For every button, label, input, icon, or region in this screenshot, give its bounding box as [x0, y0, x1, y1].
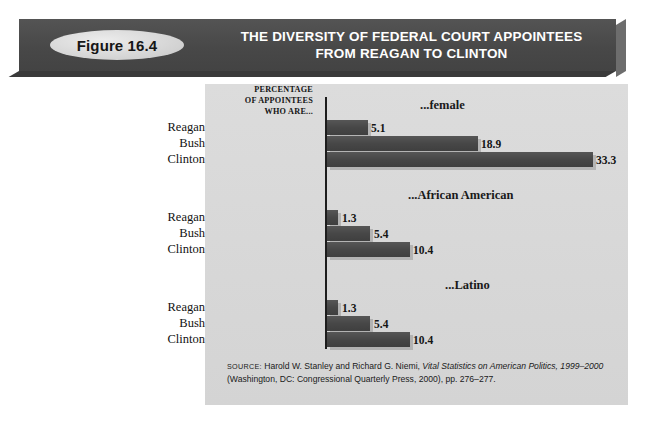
- figure-title-line-1: THE DIVERSITY OF FEDERAL COURT APPOINTEE…: [219, 28, 604, 45]
- bar-category-label: Bush: [89, 316, 205, 331]
- axis-caption-line-3: WHO ARE...: [207, 106, 313, 117]
- group-heading-female: ...female: [420, 98, 465, 113]
- figure-header-banner: Figure 16.4 THE DIVERSITY OF FEDERAL COU…: [19, 19, 626, 77]
- bar-value-label: 5.4: [374, 226, 388, 242]
- chart-panel: PERCENTAGE OF APPOINTEES WHO ARE... ...f…: [205, 84, 628, 405]
- banner-face: Figure 16.4 THE DIVERSITY OF FEDERAL COU…: [19, 19, 616, 71]
- bar-value-label: 10.4: [413, 242, 433, 258]
- figure-title-line-2: FROM REAGAN TO CLINTON: [219, 45, 604, 62]
- bar-value-label: 10.4: [413, 332, 433, 348]
- bar-category-label: Reagan: [89, 120, 205, 135]
- axis-caption-line-2: OF APPOINTEES: [207, 95, 313, 106]
- bar-category-label: Clinton: [89, 242, 205, 257]
- bar-value-label: 5.1: [371, 120, 385, 136]
- source-publisher: (Washington, DC: Congressional Quarterly…: [227, 374, 496, 384]
- bar-value-label: 18.9: [481, 136, 501, 152]
- plot-area: PERCENTAGE OF APPOINTEES WHO ARE... ...f…: [205, 84, 628, 354]
- bar-value-label: 1.3: [342, 210, 356, 226]
- bar-african-american-clinton: [327, 242, 410, 257]
- bar-female-bush: [327, 136, 478, 151]
- banner-bevel-right: [616, 19, 626, 77]
- source-note: SOURCE: Harold W. Stanley and Richard G.…: [227, 360, 617, 386]
- source-authors: Harold W. Stanley and Richard G. Niemi,: [262, 361, 422, 371]
- bar-female-clinton: [327, 152, 593, 167]
- bar-category-label: Clinton: [89, 152, 205, 167]
- figure-title: THE DIVERSITY OF FEDERAL COURT APPOINTEE…: [219, 28, 604, 62]
- banner-bevel-bottom: [9, 71, 616, 77]
- bar-category-label: Bush: [89, 136, 205, 151]
- group-heading-latino: ...Latino: [445, 278, 490, 293]
- bar-category-label: Bush: [89, 226, 205, 241]
- bar-category-label: Reagan: [89, 210, 205, 225]
- bar-value-label: 33.3: [596, 152, 616, 168]
- figure-number-label: Figure 16.4: [77, 37, 157, 54]
- bar-value-label: 5.4: [374, 316, 388, 332]
- bar-latino-reagan: [327, 300, 338, 315]
- bar-value-label: 1.3: [342, 300, 356, 316]
- axis-caption: PERCENTAGE OF APPOINTEES WHO ARE...: [207, 84, 313, 117]
- bar-latino-bush: [327, 316, 370, 331]
- bar-african-american-reagan: [327, 210, 338, 225]
- group-heading-african-american: ...African American: [408, 188, 514, 203]
- bar-category-label: Clinton: [89, 332, 205, 347]
- source-lead: SOURCE:: [227, 362, 262, 371]
- bar-category-label: Reagan: [89, 300, 205, 315]
- axis-caption-line-1: PERCENTAGE: [207, 84, 313, 95]
- bar-female-reagan: [327, 120, 368, 135]
- bar-latino-clinton: [327, 332, 410, 347]
- figure-number-badge: Figure 16.4: [50, 30, 184, 60]
- source-title: Vital Statistics on American Politics, 1…: [422, 361, 603, 371]
- bar-african-american-bush: [327, 226, 370, 241]
